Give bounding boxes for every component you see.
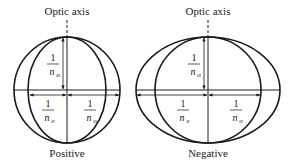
svg-text:n: n (180, 112, 185, 123)
positive-caption: Positive (49, 147, 85, 159)
svg-text:n: n (45, 112, 50, 123)
svg-text:e: e (51, 117, 54, 125)
right-fraction-label: 1 n o (230, 98, 243, 125)
svg-text:n: n (50, 66, 55, 77)
svg-text:1: 1 (192, 52, 197, 63)
svg-text:1: 1 (51, 52, 56, 63)
vertical-fraction-label: 1 n o (47, 52, 60, 79)
left-fraction-label: 1 n e (177, 98, 190, 125)
svg-text:o: o (197, 71, 201, 79)
negative-index-ellipsoid: Optic axis 1 n o 1 n e 1 n o Negative (136, 5, 280, 159)
vertical-fraction-label: 1 n o (188, 52, 201, 79)
svg-text:1: 1 (234, 98, 239, 109)
positive-index-ellipsoid: Optic axis 1 n o 1 n e 1 n o (14, 5, 120, 159)
svg-text:1: 1 (181, 98, 186, 109)
svg-text:n: n (87, 112, 92, 123)
svg-text:n: n (191, 66, 196, 77)
svg-text:o: o (93, 117, 97, 125)
birefringence-diagram: Optic axis 1 n o 1 n e 1 n o (0, 0, 295, 164)
left-fraction-label: 1 n e (42, 98, 55, 125)
svg-text:o: o (239, 117, 243, 125)
optic-axis-label: Optic axis (45, 5, 90, 17)
svg-text:o: o (56, 71, 60, 79)
optic-axis-label: Optic axis (186, 5, 231, 17)
svg-text:1: 1 (46, 98, 51, 109)
right-fraction-label: 1 n o (84, 98, 97, 125)
svg-text:n: n (233, 112, 238, 123)
negative-caption: Negative (188, 147, 228, 159)
svg-text:1: 1 (88, 98, 93, 109)
svg-text:e: e (186, 117, 189, 125)
